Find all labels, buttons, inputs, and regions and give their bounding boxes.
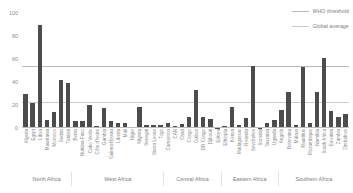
bar-slot (186, 13, 193, 128)
bar-slot (93, 13, 100, 128)
x-axis-tick-label: Chad (179, 129, 184, 140)
bar-slot (321, 13, 328, 128)
bar-slot (129, 13, 136, 128)
category-label-slot: Benin (72, 129, 79, 171)
category-label-slot: Zimbabwe (342, 129, 349, 171)
bar (329, 111, 333, 128)
y-axis-tick-label: 80 (12, 33, 18, 39)
x-axis-tick-label: Seychelles (251, 129, 256, 151)
category-label-slot: Zambia (335, 129, 342, 171)
category-label-slot: Niger (129, 129, 136, 171)
bar (194, 90, 198, 128)
category-label-slot: Sudan (58, 129, 65, 171)
bar-slot (221, 13, 228, 128)
category-label-slot: Tunisia (65, 129, 72, 171)
bar (301, 67, 305, 128)
bar-slot (36, 13, 43, 128)
category-label-slot: Côte d'Ivoire (93, 129, 100, 171)
category-label-slot: Cabo Verde (86, 129, 93, 171)
bar-slot (157, 13, 164, 128)
bar-chart: WHO threshold Global average 02040608010… (0, 0, 353, 193)
x-axis-tick-label: Sierra Leone (151, 129, 156, 155)
bar-slot (292, 13, 299, 128)
category-label-slot: Nigeria (136, 129, 143, 171)
bar-slot (50, 13, 57, 128)
x-axis-tick-label: Gabon (194, 129, 199, 143)
x-axis-tick-label: DR Congo (201, 129, 206, 150)
bar (286, 92, 290, 128)
category-label-slot: Togo (157, 129, 164, 171)
category-label-slot: Seychelles (250, 129, 257, 171)
bar-slot (193, 13, 200, 128)
category-label-slot: Angola (278, 129, 285, 171)
x-axis-tick-label: Zambia (336, 129, 341, 144)
bar-series (22, 13, 349, 128)
x-axis-tick-label: Cabo Verde (87, 129, 92, 153)
region-group-label: Central Africa (163, 172, 220, 186)
x-axis-tick-label: Mali (123, 129, 128, 137)
bar-slot (271, 13, 278, 128)
category-label-slot: Mauritania (43, 129, 50, 171)
x-axis-tick-label: Mozambique (307, 129, 312, 155)
x-axis-tick-label: Algeria (23, 129, 28, 143)
category-label-slot: Madagascar (235, 129, 242, 171)
x-axis-tick-label: South Africa (322, 129, 327, 154)
category-label-slot: South Africa (321, 129, 328, 171)
bar (38, 25, 42, 129)
x-axis-tick-label: Kenya (229, 129, 234, 142)
y-axis-tick-label: 40 (12, 79, 18, 85)
bar-slot (285, 13, 292, 128)
bar-slot (257, 13, 264, 128)
region-group-label: West Africa (71, 172, 163, 186)
bar-slot (171, 13, 178, 128)
bar-slot (242, 13, 249, 128)
category-label-slot: Somalia (257, 129, 264, 171)
category-label-slot: Congo (186, 129, 193, 171)
category-label-slot: Gabon (193, 129, 200, 171)
y-axis: 020406080100 (0, 13, 20, 128)
x-axis-tick-label: Eritrea (215, 129, 220, 142)
bar-slot (214, 13, 221, 128)
bar (279, 110, 283, 128)
bar-slot (65, 13, 72, 128)
x-axis-tick-label: Congo (187, 129, 192, 142)
x-axis-tick-label: Benin (73, 129, 78, 141)
x-axis-tick-label: Madagascar (236, 129, 241, 154)
category-label-slot: CAR (171, 129, 178, 171)
x-axis-baseline (22, 127, 349, 128)
bar (52, 112, 56, 128)
bar (30, 103, 34, 128)
bar (251, 66, 255, 128)
bar-slot (79, 13, 86, 128)
category-label-slot: DR Congo (200, 129, 207, 171)
bar (315, 92, 319, 128)
bar-slot (306, 13, 313, 128)
bar (59, 80, 63, 128)
category-label-slot: Malawi (292, 129, 299, 171)
bar-slot (235, 13, 242, 128)
category-label-slot: Ethiopia (221, 129, 228, 171)
category-label-slot: Chad (178, 129, 185, 171)
category-label-slot: Burkina Faso (79, 129, 86, 171)
bar-slot (264, 13, 271, 128)
bar-slot (299, 13, 306, 128)
region-group-label: Eastern Africa (221, 172, 278, 186)
bar-slot (122, 13, 129, 128)
category-label-slot: Tanzania (264, 129, 271, 171)
x-axis-tick-label: Guinea-Bissau (108, 129, 113, 159)
bar-slot (100, 13, 107, 128)
bar-slot (200, 13, 207, 128)
bar-slot (150, 13, 157, 128)
plot-area (22, 13, 349, 128)
x-axis-tick-label: Tunisia (66, 129, 71, 143)
bar-slot (164, 13, 171, 128)
bar-slot (335, 13, 342, 128)
x-axis-tick-label: Burkina Faso (80, 129, 85, 156)
x-axis-tick-label: Namibia (315, 129, 320, 146)
bar-slot (178, 13, 185, 128)
bar (23, 94, 27, 129)
x-axis-tick-label: Senegal (144, 129, 149, 146)
bar-slot (86, 13, 93, 128)
category-label-slot: Egypt (29, 129, 36, 171)
x-axis-tick-label: Uganda (272, 129, 277, 145)
